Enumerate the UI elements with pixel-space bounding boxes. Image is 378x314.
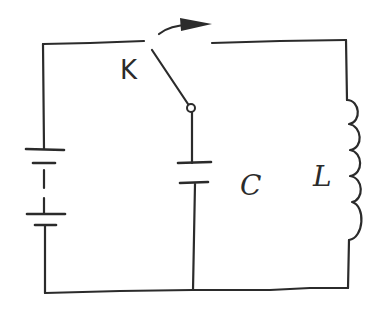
capacitor-lead-bottom [193,184,195,290]
switch-icon [152,50,195,112]
capacitor-label: C [240,172,261,200]
left-wire-top [43,44,44,149]
switch-blade [152,50,188,104]
right-wire-top [346,40,347,100]
inductor-label: L [313,163,332,191]
switch-pivot-contact [187,104,195,112]
curved-arrow-icon [159,18,212,34]
switch-label: K [120,57,137,83]
bottom-wire [45,288,348,293]
right-wire-bottom [348,240,349,288]
battery-long-plate-1 [26,149,64,150]
circuit-diagram [0,0,378,314]
top-wire-left [43,41,144,44]
capacitor-plate-bottom [180,182,208,183]
battery-icon [26,149,65,225]
top-wire-right [212,40,346,43]
capacitor-plate-top [178,162,211,163]
capacitor-icon [178,162,211,183]
arrow-head [180,18,212,31]
inductor-icon [347,100,361,240]
